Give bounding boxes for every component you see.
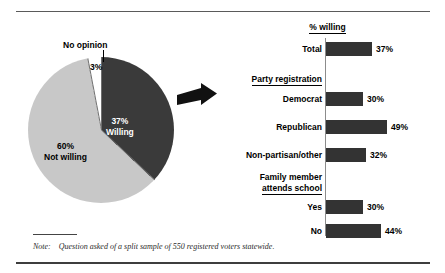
top-divider	[16, 11, 430, 12]
pie-label-willing: 37% Willing	[106, 116, 134, 137]
bar-group-header-party-text: Party registration	[252, 74, 322, 86]
bar-chart: % willing Total 37% Party registration D…	[255, 22, 445, 244]
footnote-label: Note:	[33, 242, 51, 251]
bar-label-republican: Republican	[232, 118, 322, 136]
bar-row-yes: Yes 30%	[255, 198, 445, 216]
bar-row-no: No 44%	[255, 222, 445, 240]
pie-label-willing-text: Willing	[106, 127, 134, 138]
bar-chart-title-text: % willing	[309, 22, 345, 34]
pie-callout-no-opinion: No opinion	[63, 40, 107, 50]
bar-fill-democrat	[326, 92, 363, 106]
pie-chart: 37% Willing 60% Not willing	[28, 57, 174, 203]
bar-row-democrat: Democrat 30%	[255, 90, 445, 108]
footnote-divider	[33, 234, 77, 235]
bar-fill-republican	[326, 120, 387, 134]
bottom-divider	[16, 262, 430, 264]
footnote: Note:Question asked of a split sample of…	[33, 242, 274, 251]
bar-label-democrat: Democrat	[232, 90, 322, 108]
bar-fill-nonpartisan	[326, 148, 366, 162]
bar-fill-yes	[326, 200, 363, 214]
bar-group-header-party: Party registration	[232, 74, 322, 85]
bar-label-no: No	[232, 222, 322, 240]
bar-value-yes: 30%	[367, 198, 384, 216]
bar-row-republican: Republican 49%	[255, 118, 445, 136]
bar-value-republican: 49%	[391, 118, 408, 136]
bar-label-nonpartisan: Non-partisan/other	[232, 146, 322, 164]
bar-chart-title: % willing	[255, 22, 400, 32]
bar-fill-no	[326, 224, 381, 238]
bar-group-header-family: Family member attends school	[232, 172, 322, 194]
pie-label-not-willing-text: Not willing	[44, 152, 87, 163]
bar-value-total: 37%	[376, 40, 393, 58]
bar-group-header-family-line2: attends school	[232, 183, 322, 194]
pie-label-not-willing: 60% Not willing	[44, 141, 87, 162]
pie-label-no-opinion-value: 3%	[90, 62, 102, 72]
bar-fill-total	[326, 42, 372, 56]
bar-label-total: Total	[232, 40, 322, 58]
bar-group-header-family-line1: Family member	[232, 172, 322, 183]
bar-row-total: Total 37%	[255, 40, 445, 58]
bar-value-nonpartisan: 32%	[370, 146, 387, 164]
bar-label-yes: Yes	[232, 198, 322, 216]
right-arrow-icon	[176, 82, 218, 110]
footnote-text: Question asked of a split sample of 550 …	[59, 242, 275, 251]
pie-label-not-willing-value: 60%	[44, 141, 87, 152]
pie-callout-leader-line	[103, 50, 104, 62]
bar-value-no: 44%	[385, 222, 402, 240]
pie-label-willing-value: 37%	[106, 116, 134, 127]
bar-row-nonpartisan: Non-partisan/other 32%	[255, 146, 445, 164]
figure-container: 37% Willing 60% Not willing No opinion 3…	[0, 0, 445, 273]
bar-value-democrat: 30%	[367, 90, 384, 108]
